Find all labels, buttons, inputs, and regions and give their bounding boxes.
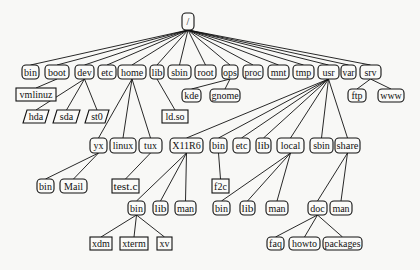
tree-node-www[interactable]: www <box>378 89 404 102</box>
tree-node-x_bin[interactable]: bin <box>128 201 145 215</box>
tree-node-doc[interactable]: doc <box>308 201 327 215</box>
node-label: man <box>268 203 285 214</box>
tree-node-l_lib[interactable]: lib <box>240 201 255 215</box>
edge-root-proc <box>188 30 253 65</box>
node-label: share <box>337 140 360 151</box>
node-label: bin <box>39 181 52 192</box>
node-label: ld.so <box>165 111 184 122</box>
tree-node-share[interactable]: share <box>335 138 360 153</box>
node-label: sbin <box>313 140 330 151</box>
tree-node-ldso[interactable]: ld.so <box>162 110 188 123</box>
tree-node-hda[interactable]: hda <box>23 110 49 123</box>
tree-node-x_man[interactable]: man <box>175 201 196 215</box>
node-label: hda <box>29 111 44 122</box>
tree-node-home[interactable]: home <box>118 65 146 79</box>
edge-root-var <box>188 30 349 65</box>
tree-node-mail[interactable]: Mail <box>60 179 87 193</box>
node-label: etc <box>236 140 248 151</box>
node-label: faq <box>269 238 282 249</box>
tree-node-root[interactable]: / <box>182 13 194 30</box>
tree-node-ops[interactable]: ops <box>222 65 238 79</box>
tree-node-usr[interactable]: usr <box>318 65 339 79</box>
node-label: srv <box>364 67 376 78</box>
tree-node-rootdir[interactable]: root <box>195 65 216 79</box>
tree-node-usr_bin[interactable]: bin <box>210 138 227 153</box>
tree-node-tux[interactable]: tux <box>139 138 162 153</box>
tree-node-mnt[interactable]: mnt <box>268 65 289 79</box>
node-label: lib <box>242 203 254 214</box>
edge-tux-testc <box>126 153 151 179</box>
tree-node-st0[interactable]: st0 <box>85 110 109 123</box>
edge-usr-share <box>329 79 348 138</box>
node-label: local <box>281 140 301 151</box>
tree-node-x_lib[interactable]: lib <box>153 201 168 215</box>
node-label: ops <box>223 67 237 78</box>
tree-node-xdm[interactable]: xdm <box>90 237 112 250</box>
tree-node-srv[interactable]: srv <box>360 65 381 79</box>
node-label: tmp <box>296 67 312 78</box>
node-label: var <box>343 67 356 78</box>
tree-node-packages[interactable]: packages <box>323 237 362 250</box>
edge-share-doc <box>318 153 348 201</box>
tree-node-ftp[interactable]: ftp <box>348 89 366 102</box>
edge-yx-mail <box>74 153 99 179</box>
tree-node-sda[interactable]: sda <box>53 110 80 123</box>
tree-node-boot[interactable]: boot <box>45 65 69 79</box>
node-label: xterm <box>122 238 146 249</box>
node-label: man <box>332 203 349 214</box>
tree-node-var[interactable]: var <box>341 65 356 79</box>
node-label: home <box>121 67 144 78</box>
node-label: xdm <box>92 238 110 249</box>
tree-node-tmp[interactable]: tmp <box>293 65 314 79</box>
node-label: sda <box>60 111 74 122</box>
node-label: lib <box>258 140 270 151</box>
node-label: etc <box>101 67 113 78</box>
tree-node-xterm[interactable]: xterm <box>120 237 148 250</box>
tree-node-vmlinuz[interactable]: vmlinuz <box>16 88 56 101</box>
edge-usr_bin-f2c <box>219 153 221 179</box>
tree-node-gnome[interactable]: gnome <box>210 89 240 102</box>
edge-lib-ldso <box>157 79 175 110</box>
tree-node-faq[interactable]: faq <box>267 237 284 250</box>
edge-usr-usr_etc <box>242 79 329 138</box>
tree-node-etc[interactable]: etc <box>98 65 116 79</box>
edge-dev-sda <box>67 79 85 110</box>
tree-node-usr_lib[interactable]: lib <box>256 138 271 153</box>
tree-node-testc[interactable]: test.c <box>112 179 139 193</box>
edge-root-etc <box>107 30 188 65</box>
filesystem-tree-diagram: /binbootdevetchomelibsbinrootopsprocmntt… <box>0 0 420 270</box>
node-label: man <box>177 203 194 214</box>
tree-node-lib[interactable]: lib <box>150 65 164 79</box>
tree-node-dev[interactable]: dev <box>75 65 94 79</box>
tree-node-usr_sbin[interactable]: sbin <box>310 138 333 153</box>
tree-node-sbin[interactable]: sbin <box>168 65 191 79</box>
node-label: linux <box>113 140 134 151</box>
tree-node-proc[interactable]: proc <box>243 65 263 79</box>
tree-node-linux[interactable]: linux <box>110 138 136 153</box>
tree-node-howto[interactable]: howto <box>289 237 320 250</box>
edge-home-linux <box>123 79 132 138</box>
tree-node-l_man[interactable]: man <box>266 201 288 215</box>
tree-node-yx_bin[interactable]: bin <box>37 179 54 193</box>
tree-node-yx[interactable]: yx <box>90 138 107 153</box>
tree-node-kde[interactable]: kde <box>182 89 201 102</box>
node-label: X11R6 <box>172 140 201 151</box>
node-label: yx <box>94 140 104 151</box>
edge-yx-yx_bin <box>46 153 99 179</box>
edge-root-bin <box>31 30 189 65</box>
node-label: usr <box>322 67 335 78</box>
edge-x_bin-xv <box>137 215 165 237</box>
edge-doc-packages <box>318 215 343 237</box>
node-label: root <box>197 67 213 78</box>
tree-node-local[interactable]: local <box>277 138 304 153</box>
tree-node-f2c[interactable]: f2c <box>212 179 229 193</box>
node-label: tux <box>144 140 157 151</box>
tree-node-x11r6[interactable]: X11R6 <box>170 138 203 153</box>
tree-node-bin[interactable]: bin <box>22 65 39 79</box>
tree-node-usr_etc[interactable]: etc <box>233 138 250 153</box>
edge-root-rootdir <box>188 30 206 65</box>
tree-node-l_bin[interactable]: bin <box>213 201 230 215</box>
edge-share-s_man <box>341 153 348 201</box>
tree-node-xv[interactable]: xv <box>157 237 172 250</box>
tree-node-s_man[interactable]: man <box>330 201 352 215</box>
